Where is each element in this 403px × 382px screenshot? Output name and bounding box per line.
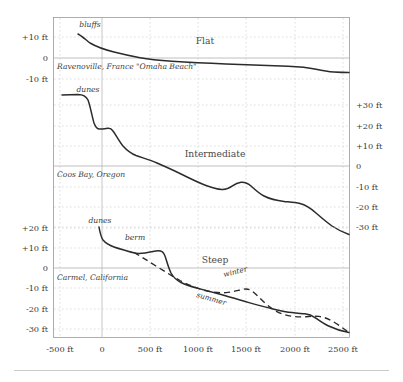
profile-line-intermediate [62,95,349,235]
ytick-steep-0: +20 ft [22,223,49,233]
xtick-4: 1500 ft [231,344,261,354]
series-label-summer: summer [195,290,227,307]
xtick-2: 500 ft [138,344,163,354]
beach-profile-figure: Flat Ravenoville, France "Omaha Beach" b… [0,0,403,382]
ytick-inter-1: +20 ft [356,121,383,131]
xtick-3: 1000 ft [183,344,213,354]
series-label-winter: winter [222,264,248,279]
ytick-inter-5: -20 ft [356,202,379,212]
feature-label-berm: berm [125,233,145,242]
xtick-6: 2500 ft [328,344,358,354]
ytick-flat-0: +10 ft [22,32,49,42]
ytick-inter-6: -30 ft [356,222,379,232]
ytick-steep-1: +10 ft [22,243,49,253]
feature-label-bluffs: bluffs [79,20,101,29]
profile-line-steep-winter [99,227,349,332]
feature-label-dunes-steep: dunes [88,216,111,225]
ytick-inter-0: +30 ft [356,100,383,110]
ytick-steep-2: 0 [43,263,48,273]
feature-label-dunes-intermediate: dunes [76,85,99,94]
xtick-1: 0 [99,344,104,354]
ytick-inter-3: 0 [356,161,361,171]
ytick-steep-3: -10 ft [26,283,49,293]
panel-flat: Flat Ravenoville, France "Omaha Beach" b… [22,20,349,84]
place-label-flat: Ravenoville, France "Omaha Beach" [56,62,197,71]
ytick-inter-2: +10 ft [356,141,383,151]
xtick-0: -500 ft [46,344,74,354]
ytick-steep-5: -30 ft [26,324,49,334]
panel-intermediate: Intermediate Coos Bay, Oregon dunes +30 … [54,85,383,235]
panel-steep: Steep Carmel, California dunes berm wint… [22,216,349,334]
ytick-flat-2: -10 ft [26,74,49,84]
ytick-inter-4: -10 ft [356,182,379,192]
panel-title-flat: Flat [196,35,215,46]
panel-title-intermediate: Intermediate [185,148,246,159]
place-label-intermediate: Coos Bay, Oregon [57,170,125,179]
xtick-5: 2000 ft [280,344,310,354]
ytick-flat-1: 0 [43,53,48,63]
beach-profile-chart: Flat Ravenoville, France "Omaha Beach" b… [0,0,403,382]
place-label-steep: Carmel, California [57,273,128,282]
x-axis-labels: -500 ft 0 500 ft 1000 ft 1500 ft 2000 ft… [46,344,358,354]
ytick-steep-4: -20 ft [26,304,49,314]
panel-title-steep: Steep [202,254,229,265]
